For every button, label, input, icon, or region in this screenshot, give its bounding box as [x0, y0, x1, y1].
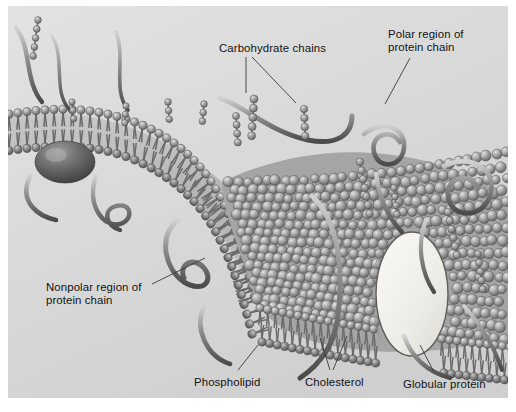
- embedded-dome-protein: [35, 141, 95, 183]
- label-cholesterol: Cholesterol: [305, 376, 364, 389]
- membrane-illustration: [8, 6, 508, 398]
- label-phospholipid: Phospholipid: [194, 376, 260, 389]
- dome-highlight: [45, 148, 67, 162]
- label-polar-region: Polar region of protein chain: [388, 28, 464, 54]
- label-globular-protein: Globular protein: [403, 378, 486, 391]
- label-carbohydrate-chains: Carbohydrate chains: [219, 42, 326, 55]
- label-nonpolar-region: Nonpolar region of protein chain: [46, 281, 142, 307]
- illustration-panel: Carbohydrate chains Polar region of prot…: [8, 6, 508, 398]
- cell-membrane-figure: Carbohydrate chains Polar region of prot…: [0, 0, 516, 412]
